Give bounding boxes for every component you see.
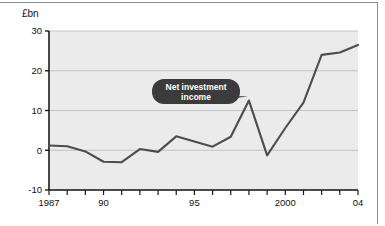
y-axis-group: 3020100-10 (28, 25, 49, 195)
y-axis-tick-label: 0 (37, 145, 42, 156)
y-axis-tick-label: -10 (28, 184, 42, 195)
x-axis-tick-label: 04 (353, 197, 364, 208)
x-axis-tick-label: 90 (98, 197, 109, 208)
y-axis-tick-label: 10 (31, 105, 42, 116)
x-axis-tick-label: 95 (189, 197, 200, 208)
plot-area-wrapper: 3020100-10 19879095200004 Net investment… (0, 0, 385, 226)
line-chart-svg: 3020100-10 19879095200004 Net investment… (0, 0, 385, 226)
callout-label-line: income (181, 92, 211, 102)
x-axis-tick-label: 1987 (38, 197, 59, 208)
callout-label-line: Net investment (166, 82, 227, 92)
x-axis-tick-label: 2000 (275, 197, 296, 208)
y-axis-tick-label: 20 (31, 65, 42, 76)
x-axis-group: 19879095200004 (38, 190, 363, 208)
y-axis-tick-label: 30 (31, 25, 42, 36)
annotation-group: Net investmentincome (152, 79, 248, 104)
chart-figure: £bn 3020100-10 19879095200004 Net invest… (0, 0, 385, 226)
